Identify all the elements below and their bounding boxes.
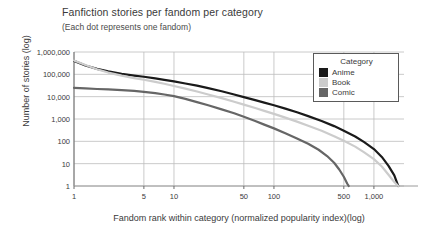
legend: Category AnimeBookComic: [313, 53, 399, 102]
legend-swatch-icon: [319, 88, 328, 97]
series-line-comic: [74, 88, 349, 186]
legend-label: Book: [332, 78, 350, 87]
legend-label: Anime: [332, 68, 355, 77]
legend-swatch-icon: [319, 78, 328, 87]
legend-item-anime[interactable]: Anime: [319, 68, 394, 77]
legend-item-book[interactable]: Book: [319, 78, 394, 87]
legend-swatch-icon: [319, 68, 328, 77]
chart-container: Fanfiction stories per fandom per catego…: [0, 0, 424, 236]
legend-item-comic[interactable]: Comic: [319, 88, 394, 97]
legend-label: Comic: [332, 88, 355, 97]
plot-area: [0, 0, 424, 236]
legend-title: Category: [319, 57, 394, 66]
